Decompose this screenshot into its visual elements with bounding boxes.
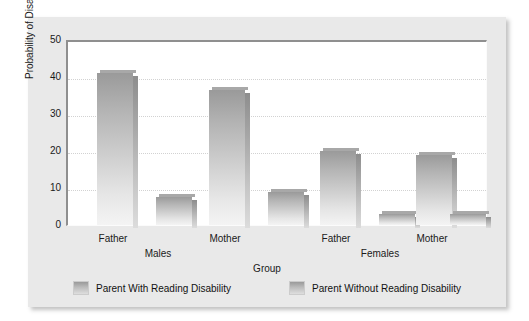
chart-figure: Probability of Disability 50 40 30 20 10…: [28, 17, 506, 307]
legend-swatch-icon: [289, 281, 305, 295]
legend-item-with: Parent With Reading Disability: [73, 281, 231, 295]
bar-side: [486, 217, 491, 228]
y-tick-label-40: 40: [39, 72, 61, 82]
bar-cap: [453, 211, 489, 214]
bar-males-father-with: [97, 73, 133, 225]
bar-side: [356, 154, 361, 228]
x-tick-label-males-mother: Mother: [209, 233, 240, 244]
y-tick-label-10: 10: [39, 183, 61, 193]
plot-area: [66, 40, 487, 226]
bar-cap: [212, 87, 248, 90]
y-tick-label-50: 50: [39, 35, 61, 45]
bar-side: [133, 76, 138, 228]
x-tick-label-females-father: Father: [322, 233, 351, 244]
legend-item-without: Parent Without Reading Disability: [289, 281, 461, 295]
bar-cap: [419, 152, 455, 155]
bar-females-father-without: [379, 214, 415, 225]
bar-females-mother-with: [416, 155, 452, 225]
bar-cap: [100, 70, 136, 73]
bar-cap: [271, 189, 307, 192]
x-group-label-males: Males: [145, 248, 172, 259]
bar-side: [304, 195, 309, 228]
bar-cap: [382, 211, 418, 214]
bar-cap: [159, 194, 195, 197]
y-axis-title: Probability of Disability: [24, 0, 35, 79]
legend-label-without: Parent Without Reading Disability: [312, 283, 461, 294]
x-axis-title: Group: [253, 263, 281, 274]
y-tick-label-20: 20: [39, 146, 61, 156]
bar-males-mother-without: [268, 192, 304, 225]
x-group-label-females: Females: [361, 248, 399, 259]
x-tick-label-males-father: Father: [99, 233, 128, 244]
y-tick-label-0: 0: [39, 220, 61, 230]
legend-label-with: Parent With Reading Disability: [96, 283, 231, 294]
bar-females-mother-without: [450, 214, 486, 225]
bar-cap: [323, 148, 359, 151]
bar-males-mother-with: [209, 90, 245, 225]
bar-females-father-with: [320, 151, 356, 225]
bar-males-father-without: [156, 197, 192, 225]
x-tick-label-females-mother: Mother: [416, 233, 447, 244]
plot-inner: [68, 42, 486, 225]
legend-swatch-icon: [73, 281, 89, 295]
chart-legend: Parent With Reading Disability Parent Wi…: [28, 281, 506, 295]
bar-side: [245, 93, 250, 228]
y-tick-label-30: 30: [39, 109, 61, 119]
bar-side: [192, 200, 197, 228]
